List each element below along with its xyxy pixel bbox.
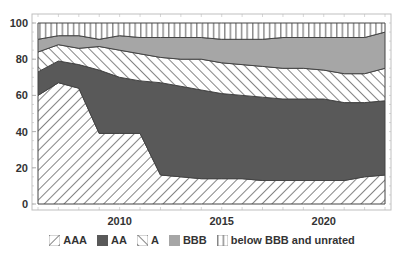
legend-item-a: A (137, 234, 159, 246)
stacked-area-chart: 020406080100201020152020 (0, 0, 404, 234)
a-swatch-icon (137, 235, 148, 246)
chart-container: 020406080100201020152020 AAA AA A BBB be… (0, 0, 404, 267)
bbb-swatch-icon (169, 235, 180, 246)
aaa-swatch-icon (49, 235, 60, 246)
y-tick-label: 80 (16, 53, 28, 65)
x-tick-label: 2020 (312, 215, 336, 227)
area-series-group (38, 23, 385, 204)
y-tick-label: 100 (10, 17, 28, 29)
legend: AAA AA A BBB below BBB and unrated (0, 234, 404, 246)
legend-label-a: A (151, 234, 159, 246)
below-bbb-swatch-icon (217, 235, 228, 246)
legend-item-aaa: AAA (49, 234, 87, 246)
y-tick-label: 60 (16, 89, 28, 101)
area-below-bbb-and-unrated (38, 23, 385, 39)
legend-item-aa: AA (97, 234, 127, 246)
y-tick-label: 20 (16, 162, 28, 174)
y-tick-label: 0 (22, 198, 28, 210)
y-tick-label: 40 (16, 126, 28, 138)
legend-item-bbb: BBB (169, 234, 207, 246)
legend-label-below-bbb: below BBB and unrated (231, 234, 355, 246)
aa-swatch-icon (97, 235, 108, 246)
legend-label-aa: AA (111, 234, 127, 246)
legend-item-below-bbb: below BBB and unrated (217, 234, 355, 246)
x-tick-label: 2010 (107, 215, 131, 227)
legend-label-aaa: AAA (63, 234, 87, 246)
legend-label-bbb: BBB (183, 234, 207, 246)
x-tick-label: 2015 (209, 215, 233, 227)
